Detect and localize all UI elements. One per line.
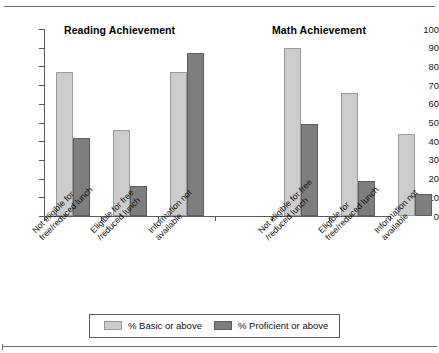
y-axis-tick-60 (39, 104, 44, 105)
legend-label-proficient: % Proficient or above (238, 320, 328, 331)
y-axis-line (44, 29, 45, 217)
y-axis-tick-20 (39, 179, 44, 180)
legend-swatch-basic-icon (104, 321, 122, 330)
y-axis-tick-50 (39, 123, 44, 124)
legend-item-basic: % Basic or above (104, 320, 202, 331)
chart-legend: % Basic or above % Proficient or above (89, 314, 340, 338)
figure-container: 100 90 80 70 60 50 40 30 20 10 0 Reading… (0, 0, 439, 353)
y-axis-label-70: 70 (405, 81, 439, 90)
legend-swatch-proficient-icon (214, 321, 232, 330)
legend-label-basic: % Basic or above (128, 320, 202, 331)
legend-item-proficient: % Proficient or above (214, 320, 328, 331)
y-axis-tick-100 (39, 29, 44, 30)
panel-title-math: Math Achievement (272, 24, 366, 36)
y-axis-label-50: 50 (405, 118, 439, 127)
y-axis-label-60: 60 (405, 99, 439, 108)
y-axis-tick-90 (39, 48, 44, 49)
panel-title-reading: Reading Achievement (64, 24, 175, 36)
y-axis-tick-30 (39, 160, 44, 161)
y-axis-tick-10 (39, 197, 44, 198)
x-axis-tick-3 (215, 216, 216, 221)
y-axis-tick-70 (39, 85, 44, 86)
y-axis-label-100: 100 (405, 25, 439, 34)
y-axis-label-90: 90 (405, 43, 439, 52)
y-axis-tick-40 (39, 141, 44, 142)
y-axis-label-80: 80 (405, 62, 439, 71)
bar-chart-plot: 100 90 80 70 60 50 40 30 20 10 0 Reading… (0, 0, 439, 353)
y-axis-tick-80 (39, 66, 44, 67)
